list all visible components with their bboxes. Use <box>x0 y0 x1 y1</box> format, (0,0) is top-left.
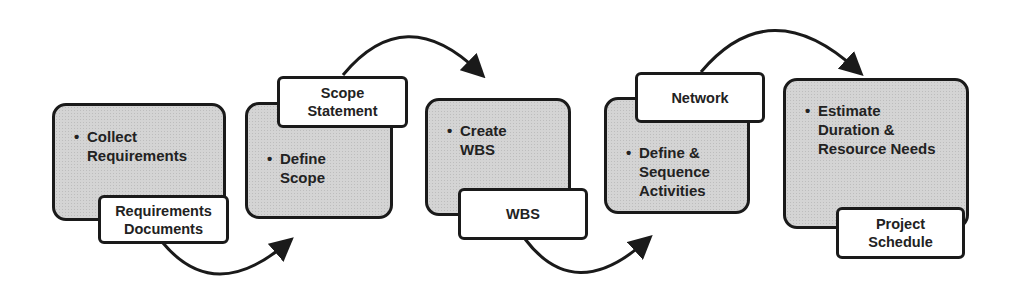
bullet-icon: • <box>626 143 631 162</box>
output-project-schedule: ProjectSchedule <box>836 207 965 259</box>
arrow-4-to-5 <box>701 30 857 72</box>
step-text-collect-requirements: • Collect Requirements <box>87 127 187 165</box>
arrow-1-to-2 <box>163 243 287 274</box>
step-text-create-wbs: • Create WBS <box>460 121 507 159</box>
step-text-estimate-duration-resources: • Estimate Duration & Resource Needs <box>818 101 936 158</box>
bullet-icon: • <box>267 149 272 168</box>
output-scope-statement: ScopeStatement <box>277 76 408 128</box>
arrow-3-to-4 <box>525 239 646 273</box>
step-text-define-sequence-activities: • Define & Sequence Activities <box>639 143 710 200</box>
output-wbs: WBS <box>458 188 588 240</box>
bullet-icon: • <box>805 101 810 120</box>
output-requirements-documents: RequirementsDocuments <box>98 195 229 244</box>
bullet-icon: • <box>74 127 79 146</box>
bullet-icon: • <box>447 121 452 140</box>
step-text-define-scope: • Define Scope <box>280 149 326 187</box>
output-network: Network <box>635 72 765 123</box>
arrow-2-to-3 <box>343 37 479 75</box>
